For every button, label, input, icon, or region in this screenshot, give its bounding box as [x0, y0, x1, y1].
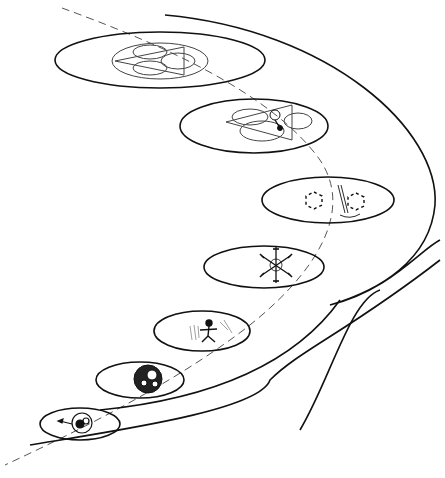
atom-particles-icon	[58, 413, 92, 433]
level-5-ring	[262, 177, 394, 223]
triangle-circles-figure-icon	[226, 105, 312, 141]
human-figure-icon	[190, 320, 232, 342]
level-4-ring	[204, 246, 324, 288]
snowflake-molecule-icon	[260, 247, 292, 283]
triangle-three-circles-icon	[112, 43, 208, 79]
hexagonal-molecules-icon	[306, 185, 364, 217]
level-6-ring	[180, 99, 328, 153]
dashed-axis-line	[5, 8, 333, 465]
level-3-ring	[154, 311, 250, 351]
cell-cluster-icon	[134, 365, 162, 393]
spiral-diagram	[0, 0, 445, 478]
level-7-ring	[55, 32, 265, 88]
